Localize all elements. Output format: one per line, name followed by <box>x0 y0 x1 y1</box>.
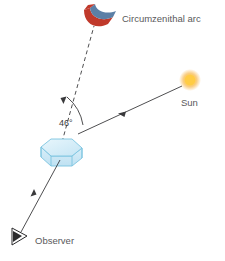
sun-label: Sun <box>181 97 198 108</box>
sun <box>179 69 201 91</box>
angle-label: 46° <box>59 118 73 128</box>
sun-disc <box>185 75 195 85</box>
circumzenithal-arc-diagram: 46° Circumzenithal arc Sun Observer <box>0 0 225 261</box>
hexagonal-plate-crystal <box>41 139 82 166</box>
figure-background <box>0 0 225 261</box>
observer-label: Observer <box>35 235 74 246</box>
arc-label: Circumzenithal arc <box>122 13 201 24</box>
